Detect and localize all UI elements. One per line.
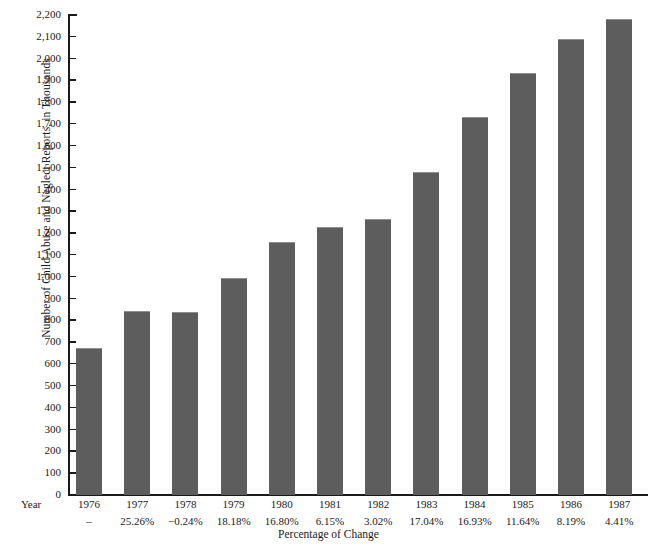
- y-axis-tick-mark: [68, 14, 76, 15]
- y-axis-tick-mark: [68, 472, 76, 473]
- y-axis-tick-label: 300: [45, 423, 62, 435]
- y-axis-tick-mark: [68, 189, 76, 190]
- y-axis-tick-label: 1,400: [36, 183, 61, 195]
- y-axis-tick-mark: [68, 79, 76, 80]
- y-axis-tick-label: 2,000: [36, 52, 61, 64]
- bar: [606, 19, 632, 495]
- x-axis-percentage-label: 4.41%: [589, 515, 649, 527]
- x-axis-year-label: 1987: [589, 498, 649, 510]
- y-axis-tick-label: 1,800: [36, 95, 61, 107]
- y-axis-tick-mark: [68, 210, 76, 211]
- bar: [413, 172, 439, 495]
- y-axis-tick-mark: [68, 450, 76, 451]
- y-axis-tick-mark: [68, 145, 76, 146]
- y-axis-tick-label: 800: [45, 313, 62, 325]
- bar: [76, 348, 102, 495]
- y-axis-tick-mark: [68, 494, 76, 495]
- y-axis-tick-label: 900: [45, 292, 62, 304]
- y-axis-tick-label: 1,500: [36, 161, 61, 173]
- y-axis-tick-mark: [68, 298, 76, 299]
- y-axis-tick-label: 1,600: [36, 139, 61, 151]
- plot-area: 01002003004005006007008009001,0001,1001,…: [68, 14, 648, 494]
- y-axis-tick-mark: [68, 385, 76, 386]
- x-axis-title: Percentage of Change: [0, 528, 657, 540]
- y-axis-tick-mark: [68, 407, 76, 408]
- y-axis-tick-label: 700: [45, 335, 62, 347]
- y-axis-tick-label: 200: [45, 444, 62, 456]
- y-axis-tick-mark: [68, 319, 76, 320]
- bar: [558, 39, 584, 495]
- y-axis-tick-label: 600: [45, 357, 62, 369]
- y-axis-tick-mark: [68, 123, 76, 124]
- y-axis-tick-mark: [68, 341, 76, 342]
- bar: [124, 311, 150, 495]
- y-axis-tick-label: 1,200: [36, 226, 61, 238]
- y-axis-tick-label: 1,900: [36, 73, 61, 85]
- bar: [269, 242, 295, 495]
- y-axis-tick-label: 1,700: [36, 117, 61, 129]
- y-axis-tick-mark: [68, 232, 76, 233]
- y-axis-tick-label: 1,100: [36, 248, 61, 260]
- y-axis-tick-label: 1,000: [36, 270, 61, 282]
- y-axis-tick-mark: [68, 58, 76, 59]
- bar: [172, 312, 198, 495]
- y-axis-tick-label: 2,200: [36, 8, 61, 20]
- y-axis-tick-label: 1,300: [36, 204, 61, 216]
- bar: [510, 73, 536, 495]
- y-axis-tick-label: 2,100: [36, 30, 61, 42]
- y-axis-tick-label: 500: [45, 379, 62, 391]
- y-axis-tick-mark: [68, 36, 76, 37]
- y-axis-tick-label: 100: [45, 466, 62, 478]
- y-axis-tick-mark: [68, 429, 76, 430]
- y-axis-tick-mark: [68, 101, 76, 102]
- y-axis-tick-mark: [68, 276, 76, 277]
- y-axis-tick-label: 400: [45, 401, 62, 413]
- bar-chart-figure: Number of Child Abuse and Neglect Report…: [0, 0, 657, 547]
- bar: [365, 219, 391, 495]
- y-axis-tick-mark: [68, 254, 76, 255]
- y-axis-tick-mark: [68, 363, 76, 364]
- bar: [317, 227, 343, 495]
- bar: [221, 278, 247, 495]
- y-axis-tick-mark: [68, 167, 76, 168]
- bar: [462, 117, 488, 495]
